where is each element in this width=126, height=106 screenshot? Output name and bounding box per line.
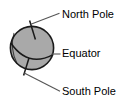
north-pole-leader-line <box>31 13 60 24</box>
earth-poles-diagram: North Pole Equator South Pole <box>0 0 126 106</box>
label-south-pole: South Pole <box>62 85 116 97</box>
south-pole-leader-line <box>24 73 60 91</box>
label-equator: Equator <box>62 47 101 59</box>
earth-diagram-svg: North Pole Equator South Pole <box>0 0 126 106</box>
label-north-pole: North Pole <box>62 8 114 20</box>
